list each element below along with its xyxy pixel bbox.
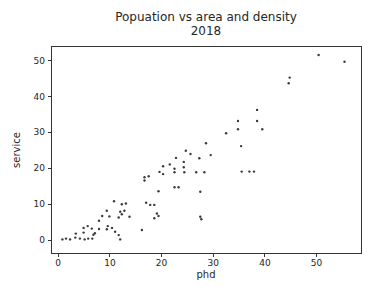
data-point bbox=[118, 216, 120, 218]
data-point bbox=[119, 238, 121, 240]
data-point bbox=[237, 128, 239, 130]
data-point bbox=[189, 153, 191, 155]
data-point bbox=[69, 238, 71, 240]
data-point bbox=[108, 215, 110, 217]
data-point bbox=[83, 238, 85, 240]
data-point bbox=[256, 120, 258, 122]
data-point bbox=[145, 202, 147, 204]
data-point bbox=[162, 165, 164, 167]
data-point bbox=[98, 228, 100, 230]
data-point bbox=[195, 171, 197, 173]
data-point bbox=[200, 218, 202, 220]
data-point bbox=[79, 237, 81, 239]
data-point bbox=[289, 76, 291, 78]
data-point bbox=[185, 150, 187, 152]
data-point bbox=[158, 171, 160, 173]
data-point bbox=[149, 204, 151, 206]
data-point bbox=[143, 179, 145, 181]
y-tick-label: 10 bbox=[34, 199, 46, 209]
data-point bbox=[173, 186, 175, 188]
data-point bbox=[169, 163, 171, 165]
scatter-plot: 0102030405001020304050 bbox=[0, 0, 379, 296]
data-point bbox=[153, 217, 155, 219]
data-point bbox=[91, 237, 93, 239]
y-axis-label: service bbox=[11, 132, 22, 168]
data-point bbox=[205, 142, 207, 144]
data-point bbox=[237, 120, 239, 122]
data-point bbox=[240, 145, 242, 147]
data-point bbox=[225, 132, 227, 134]
data-point bbox=[114, 231, 116, 233]
x-tick-label: 20 bbox=[156, 258, 168, 268]
data-point bbox=[113, 200, 115, 202]
data-point bbox=[121, 213, 123, 215]
data-point bbox=[256, 109, 258, 111]
data-point bbox=[107, 225, 109, 227]
data-point bbox=[123, 210, 125, 212]
data-point bbox=[91, 227, 93, 229]
data-point bbox=[162, 173, 164, 175]
y-tick-label: 40 bbox=[34, 92, 46, 102]
x-axis-label: phd bbox=[51, 269, 361, 280]
data-point bbox=[121, 203, 123, 205]
data-point bbox=[173, 168, 175, 170]
data-point bbox=[148, 175, 150, 177]
data-point bbox=[317, 54, 319, 56]
data-point bbox=[61, 238, 63, 240]
data-point bbox=[153, 204, 155, 206]
y-tick-label: 50 bbox=[34, 56, 46, 66]
y-tick-label: 0 bbox=[39, 235, 45, 245]
data-point bbox=[198, 157, 200, 159]
x-tick-label: 50 bbox=[311, 258, 323, 268]
data-point bbox=[203, 171, 205, 173]
data-point bbox=[343, 61, 345, 63]
plot-box bbox=[51, 46, 361, 253]
y-tick-label: 20 bbox=[34, 163, 46, 173]
data-point bbox=[125, 202, 127, 204]
data-point bbox=[141, 229, 143, 231]
data-point bbox=[106, 210, 108, 212]
data-point bbox=[87, 237, 89, 239]
data-point bbox=[157, 215, 159, 217]
data-point bbox=[199, 216, 201, 218]
data-point bbox=[119, 211, 121, 213]
data-point bbox=[128, 216, 130, 218]
data-point bbox=[111, 227, 113, 229]
data-point bbox=[241, 170, 243, 172]
data-point bbox=[199, 191, 201, 193]
data-point bbox=[156, 212, 158, 214]
x-tick-label: 40 bbox=[259, 258, 271, 268]
data-point bbox=[118, 234, 120, 236]
data-point bbox=[94, 232, 96, 234]
data-point bbox=[173, 171, 175, 173]
data-point bbox=[261, 128, 263, 130]
data-point bbox=[74, 236, 76, 238]
data-point bbox=[82, 227, 84, 229]
data-point bbox=[175, 157, 177, 159]
data-point bbox=[177, 186, 179, 188]
x-tick-label: 0 bbox=[55, 258, 61, 268]
data-point bbox=[157, 190, 159, 192]
scatter-figure: Popuation vs area and density 2018 01020… bbox=[0, 0, 379, 296]
data-point bbox=[106, 228, 108, 230]
data-point bbox=[248, 170, 250, 172]
data-point bbox=[98, 220, 100, 222]
x-tick-label: 30 bbox=[208, 258, 220, 268]
data-point bbox=[183, 166, 185, 168]
data-point bbox=[183, 161, 185, 163]
data-point bbox=[65, 237, 67, 239]
x-tick-label: 10 bbox=[104, 258, 116, 268]
data-point bbox=[253, 170, 255, 172]
data-point bbox=[210, 154, 212, 156]
data-point bbox=[143, 176, 145, 178]
data-point bbox=[82, 231, 84, 233]
y-tick-label: 30 bbox=[34, 127, 46, 137]
data-point bbox=[101, 215, 103, 217]
data-point bbox=[75, 232, 77, 234]
data-point bbox=[87, 225, 89, 227]
data-point bbox=[183, 171, 185, 173]
data-point bbox=[288, 82, 290, 84]
